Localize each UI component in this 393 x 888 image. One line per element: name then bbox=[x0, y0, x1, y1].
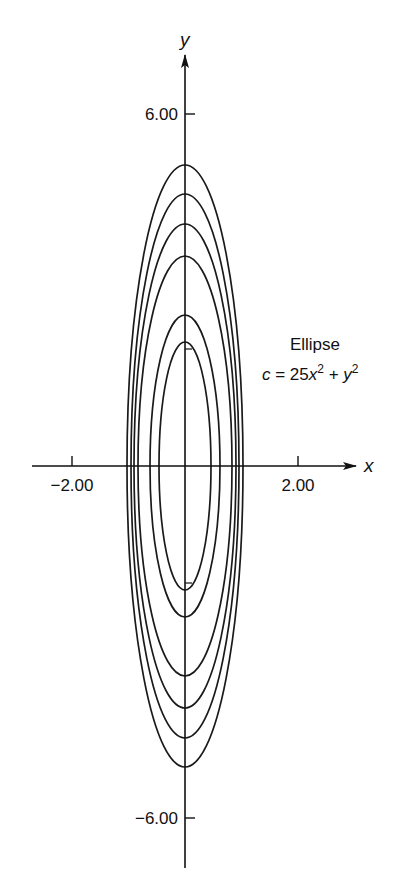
eq-mid: = 25 bbox=[271, 365, 309, 384]
annotation-title: Ellipse bbox=[290, 335, 340, 354]
annotation-equation: c = 25x2 + y2 bbox=[262, 362, 359, 384]
ellipse-contour-chart: −2.00 2.00 6.00 −6.00 x y Ellipse c = 25… bbox=[0, 0, 393, 888]
y-axis-label: y bbox=[178, 29, 191, 50]
eq-y-sup: 2 bbox=[352, 362, 359, 376]
x-tick-label-neg: −2.00 bbox=[50, 476, 93, 495]
y-tick-label-neg: −6.00 bbox=[135, 809, 178, 828]
eq-plus: + bbox=[324, 365, 343, 384]
x-axis-label: x bbox=[363, 455, 375, 476]
eq-x: x bbox=[308, 365, 318, 384]
x-tick-label-pos: 2.00 bbox=[281, 476, 314, 495]
y-tick-label-pos: 6.00 bbox=[145, 105, 178, 124]
